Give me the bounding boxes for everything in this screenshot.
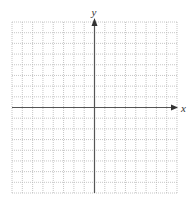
y-axis	[92, 18, 98, 193]
x-axis-arrowhead-icon	[171, 105, 178, 111]
x-axis-label: x	[180, 102, 186, 114]
y-axis-label: y	[91, 6, 97, 18]
coordinate-plane: x y	[0, 0, 191, 202]
